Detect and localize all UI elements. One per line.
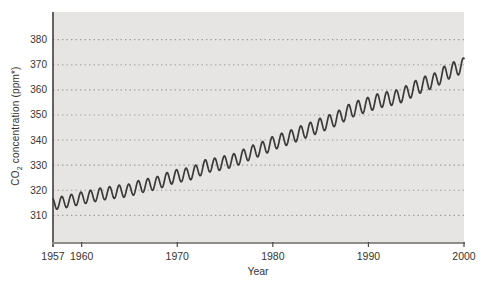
x-tick-label-2000: 2000 [452,250,476,262]
x-axis-title: Year [247,265,268,277]
y-tick-label-340: 340 [30,135,47,146]
x-tick-label-1970: 1970 [166,250,190,262]
x-tick-label-1960: 1960 [70,250,94,262]
y-tick-label-310: 310 [30,210,47,221]
y-tick-label-350: 350 [30,109,47,120]
keeling-curve-figure: 3103203303403503603703801957196019701980… [0,0,494,291]
y-tick-label-320: 320 [30,185,47,196]
y-axis-title-subscript: 2 [16,166,23,170]
y-tick-label-380: 380 [30,34,47,45]
x-tick-label-1990: 1990 [357,250,381,262]
y-tick-label-370: 370 [30,59,47,70]
y-axis-title: CO2 concentration (ppm*) [10,66,21,185]
y-tick-label-330: 330 [30,160,47,171]
plot-area [53,12,464,243]
chart-canvas: 3103203303403503603703801957196019701980… [0,0,494,291]
y-axis-title-suffix: concentration (ppm*) [10,66,21,166]
y-tick-label-360: 360 [30,84,47,95]
y-axis-title-prefix: CO [10,170,21,185]
x-tick-label-1980: 1980 [261,250,285,262]
x-tick-label-1957: 1957 [41,250,65,262]
